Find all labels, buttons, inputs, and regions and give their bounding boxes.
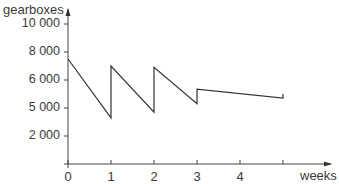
x-tick-label: 3 (189, 170, 205, 183)
x-tick-label: 4 (232, 170, 248, 183)
y-tick-label: 10 000 (0, 17, 60, 30)
y-tick-label: 2 000 (0, 129, 60, 142)
x-axis-label: weeks (300, 169, 337, 182)
stock-level-line (68, 59, 283, 118)
x-tick-label: 1 (103, 170, 119, 183)
y-tick-label: 6 000 (0, 73, 60, 86)
y-tick-label: 5 000 (0, 101, 60, 114)
y-tick-label: 8 000 (0, 45, 60, 58)
y-axis-ticks (64, 24, 68, 136)
x-axis-ticks (68, 160, 283, 164)
x-tick-label: 0 (60, 170, 76, 183)
x-tick-label: 2 (146, 170, 162, 183)
y-axis-label: gearboxes (3, 3, 64, 16)
